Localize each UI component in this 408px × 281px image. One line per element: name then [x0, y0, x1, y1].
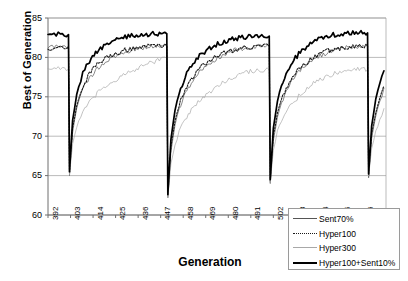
- x-tick-label: 392: [52, 207, 60, 220]
- legend-swatch-sent70: [292, 213, 318, 225]
- legend-label: Hyper100+Sent10%: [318, 258, 395, 268]
- series-line-hyper100: [48, 44, 384, 195]
- legend-swatch-hyper100: [292, 228, 318, 240]
- y-tick-label: 80: [20, 53, 42, 62]
- y-tick-label: 70: [20, 132, 42, 141]
- legend-item: Sent70%: [292, 212, 354, 226]
- legend-item: Hyper100: [292, 227, 356, 241]
- x-tick-label: 447: [164, 207, 172, 220]
- x-tick-label: 425: [119, 207, 127, 220]
- x-tick-label: 502: [277, 207, 285, 220]
- legend-swatch-hyper300: [292, 242, 318, 254]
- legend-label: Hyper100: [318, 229, 356, 239]
- x-axis-title: Generation: [120, 255, 300, 269]
- y-tick-label: 75: [20, 92, 42, 101]
- chart-legend: Sent70%Hyper100Hyper300Hyper100+Sent10%: [288, 208, 400, 270]
- series-line-sent70: [48, 44, 384, 198]
- legend-label: Sent70%: [318, 214, 354, 224]
- legend-item: Hyper300: [292, 241, 356, 255]
- x-tick-label: 469: [209, 207, 217, 220]
- legend-swatch-hyper100-sent10: [292, 257, 318, 269]
- y-tick-label: 65: [20, 171, 42, 180]
- y-tick-label: 60: [20, 211, 42, 220]
- legend-label: Hyper300: [318, 243, 356, 253]
- x-tick-label: 403: [74, 207, 82, 220]
- x-tick-label: 436: [142, 207, 150, 220]
- series-line-hyper100-sent10: [48, 31, 384, 195]
- x-tick-label: 491: [254, 207, 262, 220]
- x-tick-label: 414: [97, 207, 105, 220]
- y-tick-label: 85: [20, 14, 42, 23]
- x-tick-label: 480: [232, 207, 240, 220]
- series-line-hyper300: [48, 57, 384, 198]
- chart-figure: Best of Generation Generation 8580757065…: [0, 0, 408, 281]
- x-tick-label: 458: [187, 207, 195, 220]
- legend-item: Hyper100+Sent10%: [292, 256, 395, 270]
